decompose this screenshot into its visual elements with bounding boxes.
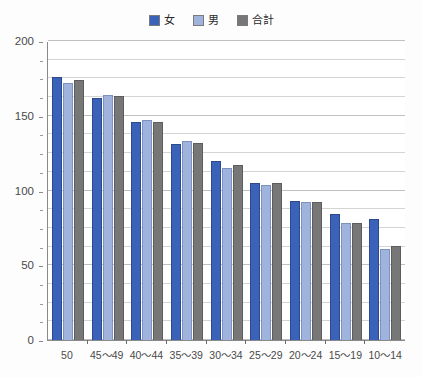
bar[interactable] xyxy=(103,95,113,340)
bar[interactable] xyxy=(182,141,192,340)
bar-group xyxy=(48,42,88,340)
bar[interactable] xyxy=(380,249,390,340)
x-axis-label: 20〜24 xyxy=(286,349,326,369)
legend-item-total[interactable]: 合計 xyxy=(237,15,274,26)
legend-label-total: 合計 xyxy=(252,15,274,26)
x-axis-tick xyxy=(364,340,365,344)
y-axis-tick xyxy=(40,61,43,62)
bar[interactable] xyxy=(330,214,340,340)
bar[interactable] xyxy=(301,202,311,340)
y-axis-label: 50 xyxy=(21,261,34,273)
y-axis-tick xyxy=(39,117,43,118)
bar-group xyxy=(207,42,247,340)
legend-label-female: 女 xyxy=(164,15,175,26)
y-axis-tick xyxy=(40,173,43,174)
x-axis-tick xyxy=(285,340,286,344)
bar-group xyxy=(365,42,405,340)
y-axis-label: 100 xyxy=(15,186,34,198)
x-axis-label: 45〜49 xyxy=(87,349,127,369)
bar[interactable] xyxy=(391,246,401,340)
bar-group xyxy=(246,42,286,340)
x-axis: 5045〜4940〜4435〜3930〜3425〜2920〜2415〜1910〜… xyxy=(47,349,405,369)
bar[interactable] xyxy=(92,98,102,340)
plot-area-wrapper xyxy=(47,42,405,341)
bar[interactable] xyxy=(369,219,379,340)
y-axis-label: 200 xyxy=(15,36,34,48)
bar[interactable] xyxy=(52,77,62,340)
bar[interactable] xyxy=(63,83,73,340)
x-axis-label: 15〜19 xyxy=(325,349,365,369)
bar[interactable] xyxy=(222,168,232,340)
x-axis-label: 10〜14 xyxy=(365,349,405,369)
y-axis-tick xyxy=(40,210,43,211)
y-axis-tick xyxy=(40,154,43,155)
bar[interactable] xyxy=(290,201,300,340)
x-axis-label: 30〜34 xyxy=(206,349,246,369)
bar[interactable] xyxy=(261,185,271,340)
y-axis-tick xyxy=(39,341,43,342)
bar[interactable] xyxy=(352,223,362,340)
legend-swatch-female xyxy=(149,15,160,26)
bar[interactable] xyxy=(312,202,322,340)
bar[interactable] xyxy=(142,120,152,340)
legend-swatch-male xyxy=(193,15,204,26)
y-axis-tick xyxy=(39,42,43,43)
bar-group xyxy=(326,42,366,340)
bar-group xyxy=(167,42,207,340)
y-axis-tick xyxy=(40,135,43,136)
bar[interactable] xyxy=(114,96,124,340)
y-axis-label: 150 xyxy=(15,111,34,123)
bar[interactable] xyxy=(272,183,282,340)
legend-item-male[interactable]: 男 xyxy=(193,15,219,26)
y-axis-tick xyxy=(40,304,43,305)
bar[interactable] xyxy=(193,143,203,340)
bar[interactable] xyxy=(153,122,163,340)
legend-swatch-total xyxy=(237,15,248,26)
y-axis-tick xyxy=(39,266,43,267)
bar[interactable] xyxy=(250,183,260,340)
y-axis-tick xyxy=(40,98,43,99)
x-axis-tick xyxy=(206,340,207,344)
x-axis-tick xyxy=(126,340,127,344)
y-axis-tick xyxy=(40,248,43,249)
y-axis-label: 0 xyxy=(28,335,34,347)
x-axis-tick xyxy=(245,340,246,344)
y-axis-tick xyxy=(40,79,43,80)
bar[interactable] xyxy=(341,223,351,340)
bar-group xyxy=(127,42,167,340)
bar-group xyxy=(286,42,326,340)
x-axis-label: 50 xyxy=(47,349,87,369)
bars-layer xyxy=(48,42,405,340)
legend-label-male: 男 xyxy=(208,15,219,26)
x-axis-tick xyxy=(166,340,167,344)
gridline xyxy=(48,40,405,41)
x-axis-label: 40〜44 xyxy=(127,349,167,369)
chart-legend: 女 男 合計 xyxy=(0,8,423,32)
x-axis-label: 25〜29 xyxy=(246,349,286,369)
bar-group xyxy=(88,42,128,340)
bar[interactable] xyxy=(233,165,243,340)
y-axis: 050100150200 xyxy=(0,42,43,341)
x-axis-tick xyxy=(325,340,326,344)
bar[interactable] xyxy=(74,80,84,340)
bar[interactable] xyxy=(211,161,221,340)
legend-item-female[interactable]: 女 xyxy=(149,15,175,26)
y-axis-tick xyxy=(40,229,43,230)
y-axis-tick xyxy=(40,285,43,286)
bar-chart: 女 男 合計 050100150200 5045〜4940〜4435〜3930〜… xyxy=(0,0,423,377)
y-axis-tick xyxy=(39,192,43,193)
bar[interactable] xyxy=(171,144,181,340)
x-axis-tick xyxy=(87,340,88,344)
plot-area xyxy=(47,42,405,341)
y-axis-tick xyxy=(40,322,43,323)
bar[interactable] xyxy=(131,122,141,340)
x-axis-label: 35〜39 xyxy=(166,349,206,369)
